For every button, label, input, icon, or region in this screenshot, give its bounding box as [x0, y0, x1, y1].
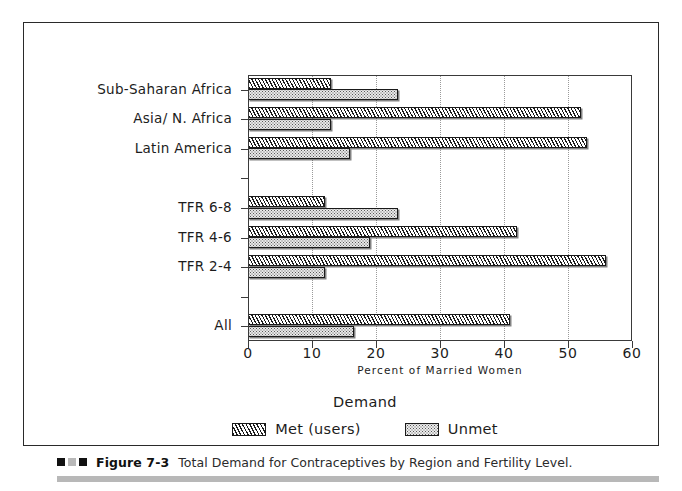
bar-met-sub-saharan-africa [248, 78, 331, 89]
y-tick-tfr-4-6 [241, 238, 248, 239]
bar-unmet-asia-n-africa [248, 119, 331, 130]
bar-met-latin-america [248, 137, 587, 148]
y-axis-label-tfr-4-6: TFR 4-6 [178, 229, 232, 245]
y-tick-blank-7 [241, 297, 248, 298]
y-axis-labels: Sub-Saharan AfricaAsia/ N. AfricaLatin A… [24, 23, 240, 447]
legend-label-met: Met (users) [275, 421, 361, 437]
x-tick-label-60: 60 [623, 345, 642, 361]
bar-met-tfr-6-8 [248, 196, 325, 207]
bar-met-tfr-4-6 [248, 226, 517, 237]
y-tick-latin-america [241, 149, 248, 150]
x-tick-label-0: 0 [243, 345, 252, 361]
legend-label-unmet: Unmet [448, 421, 498, 437]
y-tick-blank-3 [241, 178, 248, 179]
bar-unmet-tfr-6-8 [248, 208, 398, 219]
caption-marks-icon [57, 458, 87, 466]
y-tick-asia-n-africa [241, 119, 248, 120]
y-axis-label-asia-n-africa: Asia/ N. Africa [133, 110, 232, 126]
legend-swatch-met-icon [232, 423, 266, 436]
bar-met-tfr-2-4 [248, 255, 606, 266]
x-axis-title: Percent of Married Women [248, 364, 632, 376]
y-tick-tfr-2-4 [241, 267, 248, 268]
bar-met-asia-n-africa [248, 107, 581, 118]
bar-unmet-all [248, 326, 354, 337]
figure-caption: Figure 7-3 Total Demand for Contraceptiv… [57, 455, 573, 470]
figure-box: Sub-Saharan AfricaAsia/ N. AfricaLatin A… [23, 22, 659, 446]
caption-square-2-icon [68, 458, 76, 466]
x-tick-label-20: 20 [367, 345, 386, 361]
x-tick-label-50: 50 [559, 345, 578, 361]
x-tick-label-30: 30 [431, 345, 450, 361]
legend-swatch-unmet-icon [405, 423, 439, 436]
legend-item-met: Met (users) [232, 421, 361, 437]
legend-item-unmet: Unmet [405, 421, 498, 437]
y-axis-label-latin-america: Latin America [135, 140, 232, 156]
bar-met-all [248, 314, 510, 325]
legend-title: Demand [47, 394, 682, 410]
caption-rule [57, 476, 659, 482]
bar-unmet-tfr-4-6 [248, 237, 370, 248]
bar-unmet-sub-saharan-africa [248, 89, 398, 100]
plot-area [248, 75, 632, 341]
caption-description: Total Demand for Contraceptives by Regio… [178, 455, 572, 470]
y-axis-label-tfr-6-8: TFR 6-8 [178, 199, 232, 215]
x-tick-label-10: 10 [303, 345, 322, 361]
x-tick-label-40: 40 [495, 345, 514, 361]
legend: Met (users) Unmet [47, 421, 682, 437]
y-axis-label-sub-saharan-africa: Sub-Saharan Africa [97, 81, 232, 97]
y-axis-label-tfr-2-4: TFR 2-4 [178, 258, 232, 274]
caption-square-3-icon [79, 458, 87, 466]
caption-square-1-icon [57, 458, 65, 466]
y-tick-tfr-6-8 [241, 208, 248, 209]
bar-unmet-latin-america [248, 148, 350, 159]
y-tick-all [241, 326, 248, 327]
y-tick-sub-saharan-africa [241, 90, 248, 91]
bar-unmet-tfr-2-4 [248, 267, 325, 278]
caption-figure-number: Figure 7-3 [96, 455, 169, 470]
y-axis-label-all: All [214, 317, 232, 333]
